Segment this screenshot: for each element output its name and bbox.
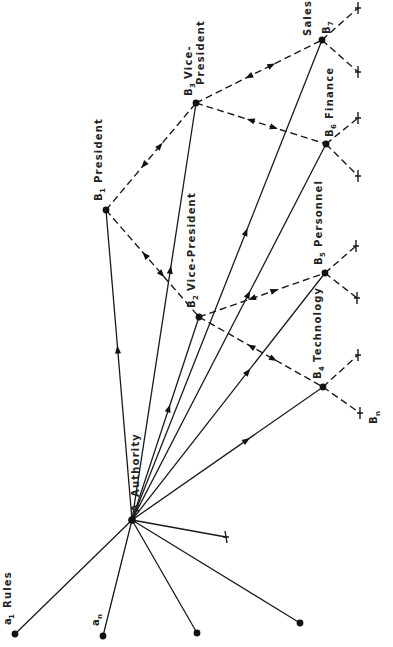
B3-label: Vice-: [183, 45, 194, 79]
terminal-mark-B4-0: [355, 349, 361, 361]
terminal-mark-B6-1: [355, 170, 361, 182]
a1-label: Rules: [2, 571, 13, 608]
B3-label-line2: President: [195, 20, 206, 85]
terminal-mark-B5-0: [353, 240, 359, 252]
label-B7: B 7 Sales: [302, 0, 335, 36]
node-B6: [323, 141, 330, 148]
label-B5: B 5 Personnel: [313, 180, 327, 265]
authority-arrow-B4: [242, 435, 252, 444]
B1-subscript: 1: [99, 188, 107, 193]
hierarchy-arrow-up-B1-B2: [140, 250, 150, 260]
terminal-edge-B4-1: [323, 387, 360, 413]
authority-edge-B2: [132, 317, 199, 520]
node-A: [128, 516, 136, 524]
B2-subscript: 2: [192, 295, 200, 300]
node-B7: [319, 37, 326, 44]
terminal-edge-B5-1: [325, 273, 357, 298]
label-an: a n: [90, 614, 104, 626]
terminal-mark-B7-0: [355, 2, 361, 14]
terminal-edge-B4-0: [323, 355, 358, 387]
B2-label: Vice-President: [186, 192, 197, 291]
nodes-layer: [12, 37, 330, 640]
node-a1: [12, 631, 19, 638]
a1-subscript: 1: [8, 614, 16, 619]
Bn-subscript: n: [374, 411, 382, 416]
hierarchy-edge-B3-B7: [196, 40, 322, 103]
label-Bn: B n: [368, 411, 382, 424]
hierarchy-arrow-down-B2-B4: [268, 354, 278, 363]
node-an: [100, 633, 107, 640]
authority-edge-B1: [106, 210, 132, 520]
B4-subscript: 4: [318, 366, 326, 371]
hierarchy-arrow-up-B3-B7: [244, 72, 254, 81]
root-label: Authority: [130, 433, 141, 497]
node-r3: [194, 630, 201, 637]
label-B4: B 4 Technology: [312, 287, 326, 379]
B6-label: Finance: [324, 67, 335, 119]
node-B2: [196, 314, 203, 321]
label-B2: B 2 Vice-President: [186, 192, 200, 308]
label-B3: B 3 Vice- President: [183, 20, 206, 96]
node-B1: [103, 207, 110, 214]
organization-diagram: A Authority a 1 Rules a n B 1 President …: [0, 0, 393, 647]
terminal-mark-B7-1: [355, 66, 361, 78]
B7-subscript: 7: [327, 21, 335, 26]
hierarchy-edge-B2-B4: [199, 317, 323, 387]
hierarchy-arrow-down-B2-B5: [270, 286, 280, 294]
B6-subscript: 6: [330, 124, 338, 129]
authority-edge-B5: [132, 273, 325, 520]
rule-edge-an: [103, 520, 132, 636]
label-a1: a 1 Rules: [2, 571, 16, 625]
hierarchy-arrow-down-B3-B7: [267, 61, 277, 70]
terminal-mark-B6-0: [355, 112, 361, 124]
B5-label: Personnel: [313, 180, 324, 247]
node-B3: [193, 100, 200, 107]
terminal-edge-B6-1: [326, 144, 358, 176]
B4-label: Technology: [312, 287, 323, 362]
root-letter: A: [130, 503, 141, 512]
label-B6: B 6 Finance: [324, 67, 338, 137]
authority-arrow-B1: [114, 345, 121, 353]
terminal-mark-B4-1: [357, 407, 363, 419]
hierarchy-arrow-up-B1-B3: [139, 160, 149, 170]
authority-arrow-B2: [165, 404, 173, 413]
hierarchy-edge-B3-B6: [196, 103, 326, 144]
node-B5: [322, 270, 329, 277]
rule-edge-r3: [132, 520, 197, 633]
an-subscript: n: [96, 614, 104, 619]
B5-subscript: 5: [319, 252, 327, 257]
authority-arrow-B7: [242, 227, 251, 237]
hierarchy-arrow-down-B3-B6: [269, 124, 278, 132]
B7-label: Sales: [302, 0, 313, 36]
hierarchy-edge-B2-B5: [199, 273, 325, 317]
node-r4: [297, 620, 304, 627]
authority-edge-B4: [132, 387, 323, 520]
hierarchy-arrow-up-B2-B4: [246, 342, 256, 351]
rule-edge-a1: [15, 520, 132, 634]
authority-edge-B7: [132, 40, 322, 520]
node-B4: [320, 384, 327, 391]
edges-layer: [15, 2, 363, 636]
truncation-mark: [223, 531, 229, 543]
label-B1: B 1 President: [93, 118, 107, 201]
B1-label: President: [93, 118, 104, 183]
terminal-mark-B5-1: [354, 292, 360, 304]
terminal-edge-B5-0: [325, 246, 356, 273]
hierarchy-arrow-up-B3-B6: [246, 116, 255, 124]
